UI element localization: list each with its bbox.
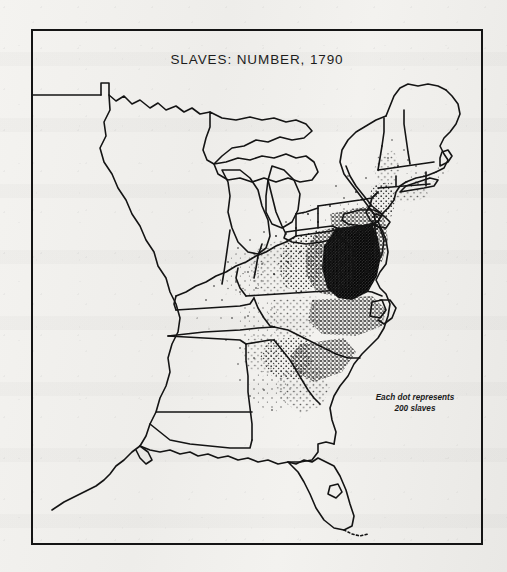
map-border-frame <box>31 29 483 545</box>
map-legend: Each dot represents 200 slaves <box>356 392 474 414</box>
map-title: SLAVES: NUMBER, 1790 <box>31 52 483 67</box>
legend-line-1: Each dot represents <box>356 392 474 403</box>
legend-line-2: 200 slaves <box>356 403 474 414</box>
